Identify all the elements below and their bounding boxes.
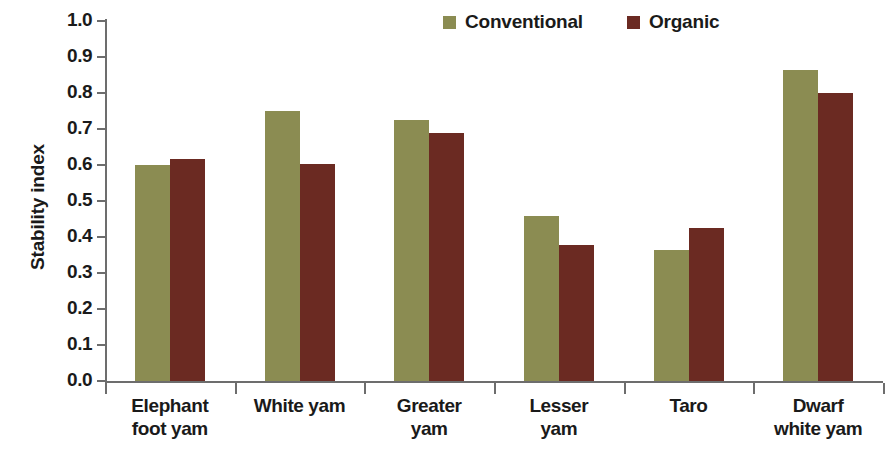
bar-conventional-3 xyxy=(524,216,559,381)
y-tick-label: 0.0 xyxy=(32,369,92,391)
bar-organic-4 xyxy=(689,228,724,381)
y-tick-label: 1.0 xyxy=(32,9,92,31)
x-axis-separator-tick xyxy=(105,383,107,394)
bar-organic-1 xyxy=(300,164,335,381)
category-label-line: Taro xyxy=(624,394,754,417)
bar-chart: Conventional Organic Stability index 1.0… xyxy=(0,0,885,451)
x-axis-category-label: White yam xyxy=(235,394,365,417)
category-label-line: Dwarf xyxy=(753,394,883,417)
x-axis-category-label: Taro xyxy=(624,394,754,417)
bar-organic-3 xyxy=(559,245,594,381)
category-label-line: White yam xyxy=(235,394,365,417)
bar-organic-2 xyxy=(429,133,464,381)
y-axis-title: Stability index xyxy=(27,57,49,357)
bar-conventional-0 xyxy=(135,165,170,381)
category-label-line: Elephant xyxy=(105,394,235,417)
x-axis-category-label: Greateryam xyxy=(364,394,494,440)
category-label-line: Lesser xyxy=(494,394,624,417)
bar-organic-0 xyxy=(170,159,205,381)
x-axis-category-label: Elephantfoot yam xyxy=(105,394,235,440)
x-axis-separator-tick xyxy=(364,383,366,394)
bar-conventional-1 xyxy=(265,111,300,381)
category-label-line: yam xyxy=(494,417,624,440)
x-axis-category-label: Dwarfwhite yam xyxy=(753,394,883,440)
bar-conventional-5 xyxy=(783,70,818,381)
category-label-line: white yam xyxy=(753,417,883,440)
category-label-line: yam xyxy=(364,417,494,440)
x-axis-separator-tick xyxy=(624,383,626,394)
x-axis-separator-tick xyxy=(753,383,755,394)
category-label-line: Greater xyxy=(364,394,494,417)
x-axis-separator-tick xyxy=(494,383,496,394)
bar-organic-5 xyxy=(818,93,853,381)
x-axis-category-label: Lesseryam xyxy=(494,394,624,440)
bar-conventional-2 xyxy=(394,120,429,381)
plot-area xyxy=(105,21,883,381)
category-label-line: foot yam xyxy=(105,417,235,440)
x-axis-separator-tick xyxy=(235,383,237,394)
bar-conventional-4 xyxy=(654,250,689,381)
